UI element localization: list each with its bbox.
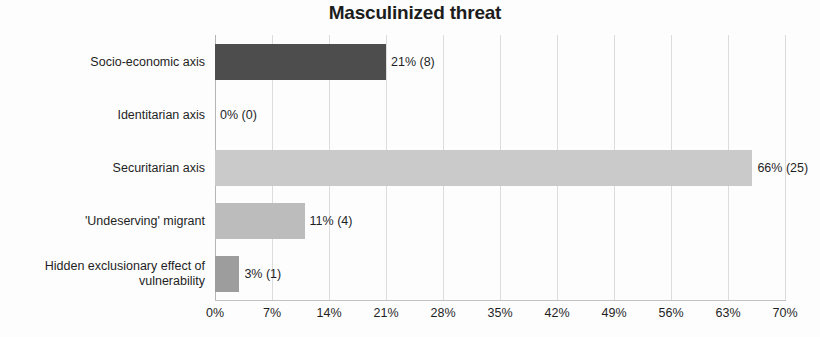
bar-data-label: 66% (25) [757, 161, 808, 175]
bar[interactable] [215, 203, 305, 239]
bar[interactable] [215, 150, 752, 186]
bar-data-label: 3% (1) [244, 267, 281, 281]
bar-data-label: 21% (8) [391, 55, 435, 69]
bar[interactable] [215, 44, 386, 80]
x-tick-label: 0% [206, 306, 224, 320]
bar-data-label: 0% (0) [220, 108, 257, 122]
x-tick-label: 28% [430, 306, 455, 320]
bar-container: 3% (1) [215, 256, 281, 292]
bar-chart: Masculinized threat Socio-economic axis2… [0, 0, 820, 337]
x-tick-label: 63% [715, 306, 740, 320]
bar-data-label: 11% (4) [310, 214, 353, 228]
bar-row: Securitarian axis66% (25) [0, 141, 820, 194]
x-tick-label: 21% [373, 306, 398, 320]
category-label: Socio-economic axis [0, 54, 205, 69]
x-tick-label: 49% [601, 306, 626, 320]
x-tick-label: 14% [316, 306, 341, 320]
x-tick-label: 70% [772, 306, 797, 320]
x-axis-line [215, 300, 786, 301]
x-tick-label: 35% [487, 306, 512, 320]
bar-container: 0% (0) [215, 97, 257, 133]
bar-row: Socio-economic axis21% (8) [0, 35, 820, 88]
bar-container: 66% (25) [215, 150, 808, 186]
x-tick-label: 7% [263, 306, 281, 320]
x-axis-tick-labels: 0%7%14%21%28%35%42%49%56%63%70% [215, 306, 785, 328]
category-label: Securitarian axis [0, 160, 205, 175]
bar-row: 'Undeserving' migrant11% (4) [0, 194, 820, 247]
category-label: 'Undeserving' migrant [0, 213, 205, 228]
category-label: Identitarian axis [0, 107, 205, 122]
bar-row: Hidden exclusionary effect ofvulnerabili… [0, 247, 820, 300]
x-tick-label: 56% [658, 306, 683, 320]
bar-container: 11% (4) [215, 203, 352, 239]
x-tick-label: 42% [544, 306, 569, 320]
bar[interactable] [215, 256, 239, 292]
bar-row: Identitarian axis0% (0) [0, 88, 820, 141]
bar-container: 21% (8) [215, 44, 435, 80]
category-label: Hidden exclusionary effect ofvulnerabili… [0, 259, 205, 289]
chart-title: Masculinized threat [0, 2, 820, 24]
